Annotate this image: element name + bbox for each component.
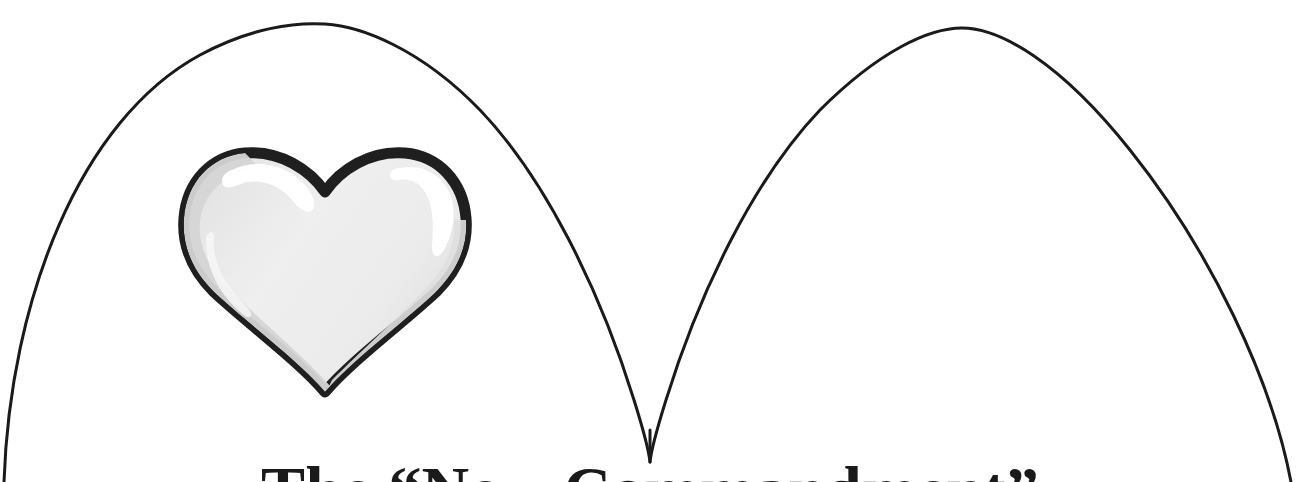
slide-canvas: The “New Commandment”	[0, 0, 1300, 482]
slide-artwork	[0, 0, 1300, 482]
